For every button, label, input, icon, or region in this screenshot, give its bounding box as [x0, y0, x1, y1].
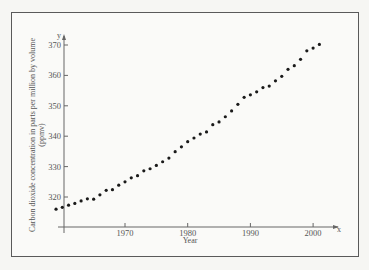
- data-point: [86, 197, 89, 200]
- data-point: [142, 169, 145, 172]
- y-axis-title-line1: Carbon dioxide concentration in parts pe…: [28, 37, 37, 232]
- data-point: [105, 189, 108, 192]
- data-point: [299, 58, 302, 61]
- y-axis-arrow-icon: [62, 34, 66, 40]
- data-point: [80, 199, 83, 202]
- y-tick-label: 330: [48, 162, 61, 172]
- x-axis-title: Year: [183, 236, 198, 245]
- data-point: [268, 84, 271, 87]
- data-point: [180, 145, 183, 148]
- data-point: [230, 109, 233, 112]
- data-point: [217, 120, 220, 123]
- data-point: [123, 180, 126, 183]
- data-point: [54, 208, 57, 211]
- data-point: [67, 204, 70, 207]
- data-point: [249, 93, 252, 96]
- data-point: [305, 49, 308, 52]
- data-point: [255, 90, 258, 93]
- data-point: [192, 136, 195, 139]
- data-point: [236, 103, 239, 106]
- data-point: [130, 176, 133, 179]
- data-point: [243, 96, 246, 99]
- data-point: [92, 198, 95, 201]
- data-point: [186, 140, 189, 143]
- data-point: [98, 193, 101, 196]
- data-point: [111, 188, 114, 191]
- y-tick-label: 370: [48, 40, 61, 50]
- data-point: [117, 184, 120, 187]
- x-tick-label: 2000: [305, 228, 322, 238]
- data-point: [136, 174, 139, 177]
- y-axis-letter: y: [57, 31, 61, 40]
- data-point: [293, 64, 296, 67]
- data-point: [161, 160, 164, 163]
- data-point: [224, 115, 227, 118]
- data-point: [318, 43, 321, 46]
- y-tick-label: 340: [48, 131, 61, 141]
- data-point: [199, 132, 202, 135]
- data-point: [148, 167, 151, 170]
- data-points: [54, 43, 321, 211]
- x-axis-ticks: 1970198019902000: [117, 223, 322, 238]
- data-point: [211, 123, 214, 126]
- x-axis-letter: x: [337, 225, 341, 234]
- data-point: [167, 156, 170, 159]
- y-tick-label: 350: [48, 101, 61, 111]
- y-axis-title-line2: (ppmv): [37, 123, 46, 147]
- data-point: [73, 202, 76, 205]
- x-tick-label: 1970: [117, 228, 134, 238]
- data-point: [205, 130, 208, 133]
- data-point: [286, 68, 289, 71]
- co2-scatter-chart: 320330340350360370 1970198019902000 Year…: [0, 0, 369, 270]
- data-point: [280, 75, 283, 78]
- data-point: [274, 79, 277, 82]
- data-point: [155, 164, 158, 167]
- x-tick-label: 1990: [242, 228, 259, 238]
- y-axis-ticks: 320330340350360370: [48, 40, 68, 202]
- data-point: [261, 86, 264, 89]
- data-point: [312, 46, 315, 49]
- data-point: [174, 150, 177, 153]
- data-point: [61, 206, 64, 209]
- y-tick-label: 320: [48, 192, 61, 202]
- axes: [58, 34, 339, 233]
- y-tick-label: 360: [48, 70, 61, 80]
